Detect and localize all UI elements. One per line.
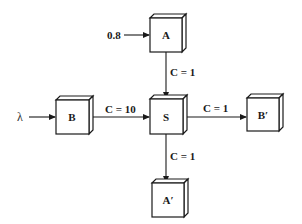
- input-label-a: 0.8: [107, 29, 121, 41]
- node-a-label: A: [162, 29, 170, 41]
- input-label-b: λ: [17, 110, 23, 124]
- node-s: S: [150, 95, 187, 134]
- node-b-prime: B′: [247, 94, 283, 131]
- edge-label-s-ap: C = 1: [170, 150, 195, 162]
- node-a: A: [150, 14, 186, 52]
- network-diagram: A S B B′ A′ 0.8 λ C = 1 C = 10 C = 1 C =…: [0, 0, 302, 224]
- node-b: B: [56, 96, 93, 134]
- node-s-label: S: [163, 111, 169, 123]
- edge-label-s-bp: C = 1: [203, 102, 228, 114]
- edge-label-b-s: C = 10: [105, 103, 136, 115]
- node-b-prime-label: B′: [258, 109, 268, 121]
- node-b-label: B: [68, 111, 76, 123]
- node-a-prime-label: A′: [162, 194, 173, 206]
- edge-label-a-s: C = 1: [170, 66, 195, 78]
- node-a-prime: A′: [152, 179, 188, 217]
